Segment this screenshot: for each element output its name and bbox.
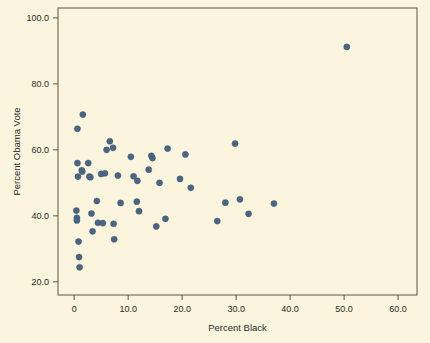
data-point (271, 201, 277, 207)
data-point (111, 221, 117, 227)
data-point (188, 185, 194, 191)
data-point (149, 155, 155, 161)
data-point (214, 218, 220, 224)
data-point (75, 173, 81, 179)
data-point (162, 216, 168, 222)
data-point (153, 223, 159, 229)
y-axis: 20.040.060.080.0100.0 (26, 13, 58, 287)
y-axis-tick-label: 20.0 (31, 277, 49, 287)
data-point (222, 200, 228, 206)
data-point (164, 145, 170, 151)
data-point (128, 154, 134, 160)
x-axis-tick-label: 10.0 (119, 304, 137, 314)
data-point (156, 180, 162, 186)
y-axis-title: Percent Obama Vote (11, 107, 22, 195)
data-point (182, 151, 188, 157)
data-point (76, 264, 82, 270)
data-point (80, 111, 86, 117)
data-point (89, 228, 95, 234)
x-axis-tick-label: 50.0 (335, 304, 353, 314)
x-axis-title: Percent Black (208, 322, 267, 333)
data-point (100, 220, 106, 226)
data-point (74, 160, 80, 166)
y-axis-tick-label: 60.0 (31, 145, 49, 155)
chart-canvas: 010.020.030.040.050.060.020.040.060.080.… (0, 0, 430, 343)
data-point (232, 140, 238, 146)
plot-frame (58, 8, 417, 295)
x-axis-tick-label: 40.0 (281, 304, 299, 314)
y-axis-tick-label: 40.0 (31, 211, 49, 221)
x-axis-tick-label: 30.0 (227, 304, 245, 314)
data-point (103, 147, 109, 153)
x-axis: 010.020.030.040.050.060.0 (72, 295, 407, 314)
data-point (75, 238, 81, 244)
data-point (245, 211, 251, 217)
data-point (111, 236, 117, 242)
y-axis-tick-label: 100.0 (26, 13, 49, 23)
data-point (74, 126, 80, 132)
y-axis-tick-label: 80.0 (31, 79, 49, 89)
data-point (107, 138, 113, 144)
data-point (115, 172, 121, 178)
data-point (79, 169, 85, 175)
data-point (146, 167, 152, 173)
data-point (110, 145, 116, 151)
x-axis-tick-label: 20.0 (173, 304, 191, 314)
data-point (85, 160, 91, 166)
x-axis-tick-label: 0 (72, 304, 77, 314)
data-point (87, 174, 93, 180)
data-point (177, 176, 183, 182)
data-point (134, 178, 140, 184)
data-points (73, 44, 350, 271)
data-point (344, 44, 350, 50)
x-axis-tick-label: 60.0 (389, 304, 407, 314)
data-point (73, 207, 79, 213)
data-point (76, 254, 82, 260)
data-point (88, 210, 94, 216)
data-point (102, 170, 108, 176)
data-point (94, 198, 100, 204)
scatter-chart: 010.020.030.040.050.060.020.040.060.080.… (0, 0, 430, 343)
data-point (237, 196, 243, 202)
data-point (74, 217, 80, 223)
data-point (134, 199, 140, 205)
data-point (118, 200, 124, 206)
data-point (136, 208, 142, 214)
